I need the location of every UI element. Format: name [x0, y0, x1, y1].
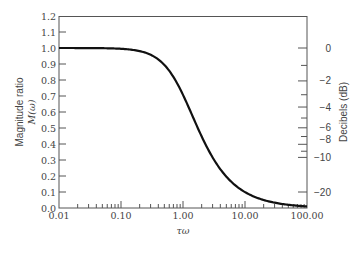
- y-tick-label: 0.4: [41, 139, 56, 150]
- decibel-tick-label: −4: [320, 102, 332, 113]
- y-tick-label: 1.2: [41, 11, 56, 22]
- y-tick-label: 1.0: [41, 43, 56, 54]
- y-axis-title: Magnitude ratio: [14, 77, 25, 146]
- decibel-tick-label: −6: [320, 122, 332, 133]
- x-axis-tick-labels: 0.010.101.0010.00100.00: [48, 210, 323, 221]
- y-tick-label: 0.2: [41, 171, 56, 182]
- decibel-tick-label: −20: [314, 187, 331, 198]
- y-tick-label: 0.1: [41, 187, 56, 198]
- y-axis-tick-labels: 0.00.10.20.30.40.50.60.70.80.91.01.11.2: [41, 11, 56, 214]
- y-tick-label: 0.6: [41, 107, 56, 118]
- y-tick-label: 1.1: [41, 27, 56, 38]
- decibel-axis-ticks: [298, 48, 307, 192]
- x-tick-label: 1.00: [172, 210, 193, 221]
- y-axis-title-symbol: M(ω): [26, 99, 37, 125]
- y-tick-label: 0.7: [41, 91, 56, 102]
- decibel-axis-tick-labels: 0−2−4−6−8−10−20: [314, 43, 331, 198]
- y-tick-label: 0.9: [41, 59, 56, 70]
- x-tick-label: 10.00: [231, 210, 258, 221]
- magnitude-ratio-curve: [59, 48, 307, 206]
- x-tick-label: 0.10: [110, 210, 131, 221]
- decibel-tick-label: −10: [314, 152, 331, 163]
- decibel-tick-label: −8: [320, 134, 332, 145]
- y-axis-ticks: [59, 32, 66, 192]
- y-tick-label: 0.3: [41, 155, 56, 166]
- decibel-tick-label: −2: [320, 75, 332, 86]
- magnitude-ratio-chart: 0.00.10.20.30.40.50.60.70.80.91.01.11.2 …: [0, 0, 353, 255]
- x-tick-label: 0.01: [48, 210, 69, 221]
- decibel-tick-label: 0: [325, 43, 331, 54]
- x-tick-label: 100.00: [290, 210, 323, 221]
- x-axis-title: τω: [176, 225, 189, 236]
- plot-frame: [59, 17, 307, 209]
- y-tick-label: 0.8: [41, 75, 56, 86]
- decibel-axis-title: Decibels (dB): [338, 82, 349, 142]
- y-tick-label: 0.5: [41, 123, 56, 134]
